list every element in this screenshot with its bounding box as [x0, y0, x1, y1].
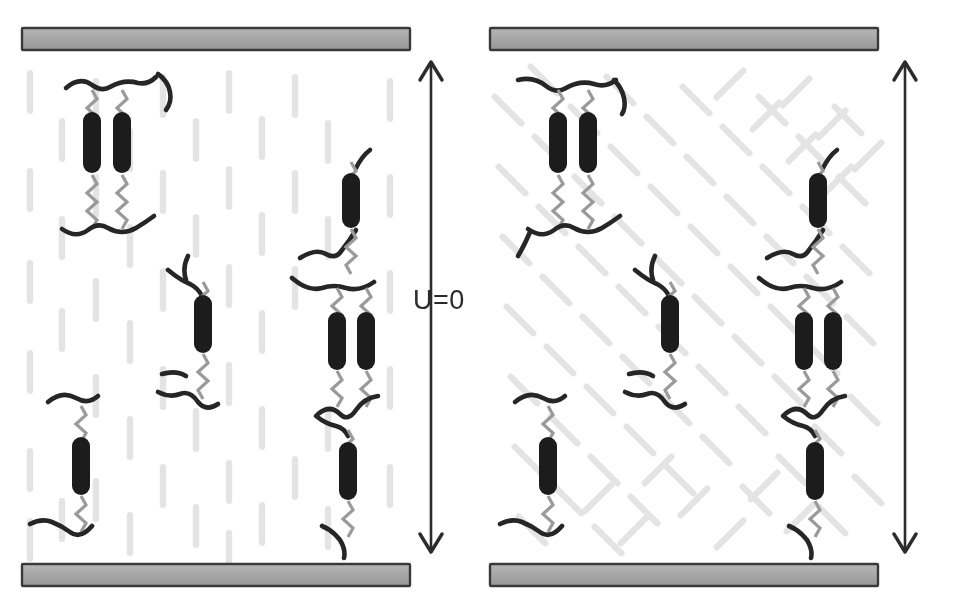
backbone-chain	[62, 216, 154, 234]
panel-right-graphic	[478, 0, 956, 615]
backbone-chain	[789, 526, 812, 558]
backbone-chain	[162, 372, 186, 376]
backbone-chain	[518, 232, 530, 256]
mesogen-rod	[549, 112, 567, 173]
mesogen-rod	[357, 312, 375, 370]
backbone-chain	[48, 395, 98, 402]
top-electrode	[22, 28, 410, 50]
spacer-zigzag	[198, 354, 208, 399]
mesogen-rod	[661, 295, 679, 353]
backbone-chain	[528, 216, 620, 234]
backbone-chain	[783, 416, 815, 436]
spacer-zigzag	[76, 496, 86, 532]
spacer-zigzag	[543, 406, 553, 442]
mesogen-rod	[579, 112, 597, 173]
mesogen-rod	[539, 437, 557, 495]
mesogen-rod	[328, 312, 346, 370]
spacer-zigzag	[343, 501, 353, 537]
spacer-zigzag	[76, 406, 86, 442]
backbone-chain	[515, 395, 565, 402]
voltage-label-left: U=0	[413, 285, 465, 316]
backbone-chain	[518, 79, 616, 91]
mesogen-rod	[194, 295, 212, 353]
lc-polymer-network	[500, 79, 845, 558]
top-electrode	[490, 28, 878, 50]
mesogen-rod	[113, 112, 131, 173]
spacer-zigzag	[117, 175, 127, 229]
figure-canvas: U=0	[0, 0, 956, 615]
backbone-chain	[66, 77, 156, 89]
bottom-electrode	[490, 564, 878, 586]
backbone-chain	[759, 278, 841, 289]
mesogen-rod	[72, 437, 90, 495]
cell-panel-right: U=V	[478, 0, 956, 615]
mesogen-rod	[83, 112, 101, 173]
backbone-chain	[651, 256, 655, 280]
cell-gap-arrow	[894, 62, 916, 552]
spacer-zigzag	[87, 175, 97, 229]
backbone-chain	[158, 392, 218, 408]
mesogen-rod	[342, 173, 360, 228]
mesogen-rod	[806, 442, 824, 500]
bottom-electrode	[22, 564, 410, 586]
spacer-zigzag	[332, 371, 342, 407]
backbone-chain	[316, 416, 348, 436]
mesogen-rod	[824, 312, 842, 370]
backbone-chain	[614, 80, 625, 114]
mesogen-rod	[809, 173, 827, 228]
backbone-chain	[356, 150, 370, 168]
cell-panel-left: U=0	[0, 0, 478, 615]
backbone-chain	[292, 278, 374, 289]
spacer-zigzag	[543, 496, 553, 532]
panel-left-graphic	[0, 0, 478, 615]
backbone-chain	[184, 256, 188, 280]
mesogen-rod	[339, 442, 357, 500]
backbone-chain	[625, 392, 685, 408]
spacer-zigzag	[665, 354, 675, 399]
mesogen-rod	[795, 312, 813, 370]
